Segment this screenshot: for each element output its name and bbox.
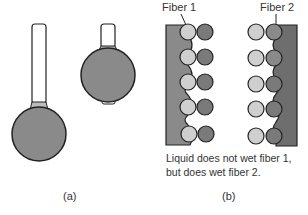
short-neck-droplet (81, 24, 135, 104)
caption-line-2: but does wet fiber 2. (166, 165, 292, 179)
fiber-2-label: Fiber 2 (260, 1, 294, 13)
long-neck-droplet (12, 24, 66, 161)
caption-line-1: Liquid does not wet fiber 1, (166, 151, 292, 165)
panel-a-label: (a) (63, 190, 76, 202)
caption: Liquid does not wet fiber 1, but does we… (166, 151, 292, 179)
diagram-canvas (0, 0, 308, 215)
panel-b-label: (b) (222, 190, 235, 202)
fiber-1-pointer (181, 14, 186, 25)
fiber-1-label: Fiber 1 (162, 1, 196, 13)
